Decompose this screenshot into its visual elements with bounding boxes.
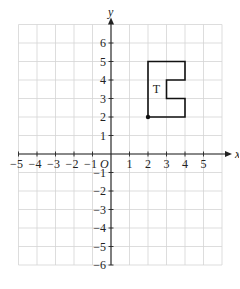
y-tick-label: −5 bbox=[93, 240, 106, 254]
y-tick-label: −4 bbox=[93, 221, 106, 235]
marked-vertex-dot bbox=[146, 115, 150, 119]
grid-lines bbox=[19, 25, 223, 266]
shape-label: T bbox=[153, 82, 161, 96]
x-axis-label: x bbox=[234, 147, 239, 161]
x-axis-arrow-icon bbox=[225, 151, 232, 157]
y-tick-label: −6 bbox=[93, 258, 106, 272]
axes: x y O bbox=[19, 5, 240, 266]
y-axis-arrow-icon bbox=[108, 18, 114, 25]
y-tick-label: −1 bbox=[93, 166, 106, 180]
coordinate-plane-figure: x y O −5−4−3−2−112345654321−1−2−3−4−5−6 … bbox=[0, 0, 239, 289]
coordinate-plane-svg: x y O −5−4−3−2−112345654321−1−2−3−4−5−6 … bbox=[0, 0, 239, 289]
x-tick-label: 1 bbox=[127, 157, 133, 171]
y-axis-label: y bbox=[107, 5, 114, 19]
x-tick-label: 5 bbox=[201, 157, 207, 171]
x-tick-label: −4 bbox=[29, 157, 42, 171]
x-tick-label: −2 bbox=[66, 157, 79, 171]
x-tick-label: −5 bbox=[10, 157, 23, 171]
y-tick-label: 5 bbox=[100, 55, 106, 69]
y-tick-label: −2 bbox=[93, 184, 106, 198]
x-tick-label: 2 bbox=[145, 157, 151, 171]
x-tick-label: 3 bbox=[164, 157, 170, 171]
y-tick-label: 1 bbox=[100, 129, 106, 143]
x-tick-label: 4 bbox=[182, 157, 188, 171]
y-tick-label: 6 bbox=[100, 36, 106, 50]
y-tick-label: −3 bbox=[93, 203, 106, 217]
x-tick-label: −3 bbox=[47, 157, 60, 171]
y-tick-label: 2 bbox=[100, 110, 106, 124]
y-tick-label: 3 bbox=[100, 92, 106, 106]
y-tick-label: 4 bbox=[100, 73, 106, 87]
